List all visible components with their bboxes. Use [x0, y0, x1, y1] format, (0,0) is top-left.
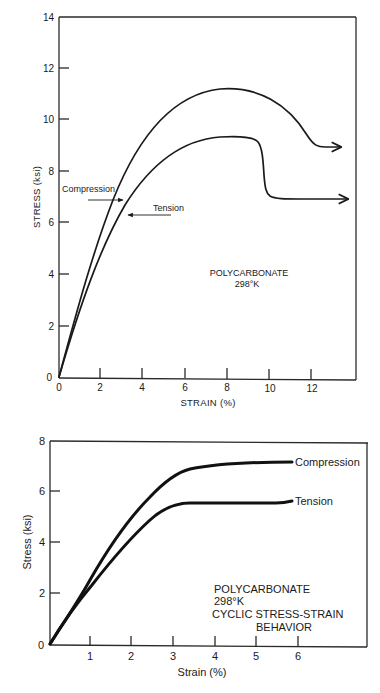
bottom-y-axis: 0 2 4 6 8 Stress (ksi)	[21, 435, 60, 651]
bottom-compression-label: Compression	[295, 456, 360, 468]
top-ytick-4: 4	[48, 269, 54, 280]
bottom-x-axis-title: Strain (%)	[178, 666, 227, 678]
bottom-ytick-0: 0	[38, 639, 44, 651]
top-xtick-8: 8	[224, 382, 230, 393]
top-xtick-12: 12	[306, 383, 318, 394]
top-xtick-10: 10	[264, 383, 276, 394]
bottom-material-label: POLYCARBONATE	[214, 583, 310, 595]
bottom-tension-label: Tension	[295, 495, 333, 507]
top-tension-label: Tension	[153, 203, 184, 213]
top-xtick-2: 2	[97, 382, 103, 393]
top-ytick-0: 0	[46, 372, 52, 383]
top-ytick-6: 6	[48, 217, 54, 228]
bottom-temperature-label: 298°K	[214, 595, 245, 607]
top-ytick-14: 14	[43, 12, 55, 23]
top-x-axis: 0 2 4 6 8 10 12 STRAIN (%)	[56, 368, 318, 408]
bottom-xtick-6: 6	[295, 650, 301, 662]
bottom-xtick-3: 3	[170, 650, 176, 662]
top-xtick-4: 4	[139, 382, 145, 393]
top-tension-curve	[59, 137, 347, 377]
top-ytick-12: 12	[43, 63, 55, 74]
bottom-xtick-1: 1	[87, 650, 93, 662]
bottom-x-axis: 1 2 3 4 5 6 Strain (%)	[87, 636, 301, 678]
top-x-axis-title: STRAIN (%)	[180, 397, 235, 408]
bottom-behavior-label-line1: CYCLIC STRESS-STRAIN	[212, 608, 343, 620]
bottom-xtick-2: 2	[128, 650, 134, 662]
top-y-axis-title: STRESS (ksi)	[31, 166, 42, 228]
top-ytick-2: 2	[48, 321, 54, 332]
top-chart: 0 2 4 6 8 10 12 14 STRESS (ksi) 0 2 4 6 …	[31, 12, 356, 408]
bottom-chart: 0 2 4 6 8 Stress (ksi) 1 2 3 4 5 6 Strai…	[21, 435, 368, 678]
top-compression-curve	[59, 89, 340, 377]
top-ytick-8: 8	[48, 166, 54, 177]
top-temperature-label: 298°K	[235, 279, 260, 289]
top-compression-label: Compression	[62, 184, 115, 194]
top-xtick-6: 6	[182, 382, 188, 393]
bottom-xtick-4: 4	[212, 650, 218, 662]
bottom-ytick-4: 4	[39, 536, 45, 548]
bottom-behavior-label-line2: BEHAVIOR	[256, 621, 312, 633]
bottom-y-axis-title: Stress (ksi)	[21, 515, 33, 570]
bottom-ytick-2: 2	[39, 587, 45, 599]
top-ytick-10: 10	[43, 114, 55, 125]
bottom-ytick-6: 6	[39, 485, 45, 497]
bottom-xtick-5: 5	[253, 650, 259, 662]
top-material-label: POLYCARBONATE	[210, 268, 289, 278]
figure-canvas: 0 2 4 6 8 10 12 14 STRESS (ksi) 0 2 4 6 …	[0, 0, 380, 693]
bottom-ytick-8: 8	[39, 435, 45, 447]
top-xtick-0: 0	[56, 382, 62, 393]
top-y-axis: 0 2 4 6 8 10 12 14 STRESS (ksi)	[31, 12, 69, 383]
